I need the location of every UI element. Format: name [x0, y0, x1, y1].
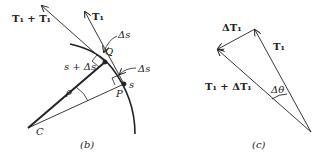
- caption-c: (c): [252, 140, 265, 150]
- label-t1-c: T₁: [273, 42, 285, 52]
- caption-b: (b): [80, 140, 94, 150]
- delta-s-pointer-right: [120, 68, 136, 74]
- label-t1-plus-t1: T₁ + T₁: [12, 14, 51, 24]
- curve-arc: [70, 44, 135, 134]
- label-rho: ρ: [66, 87, 72, 97]
- radius-cp: [28, 84, 124, 128]
- label-s: s: [129, 80, 134, 90]
- point-q: [103, 60, 107, 64]
- label-delta-t1: ΔT₁: [222, 23, 242, 33]
- label-delta-s-top: Δs: [118, 30, 130, 40]
- label-delta-s-right: Δs: [138, 64, 150, 74]
- label-delta-theta: Δθ: [271, 85, 284, 95]
- label-s-plus-delta-s: s + Δs: [64, 62, 96, 72]
- label-t1: T₁: [92, 12, 104, 22]
- point-p: [122, 82, 126, 86]
- label-t1-plus-delta-t1: T₁ + ΔT₁: [205, 82, 252, 92]
- label-p: P: [116, 89, 123, 99]
- angle-arc-c: [76, 87, 88, 101]
- label-c: C: [36, 127, 44, 137]
- figure-canvas: T₁ + T₁ T₁ Δs Q Δs s + Δs s P ρ C (b) ΔT…: [0, 0, 321, 156]
- label-q: Q: [105, 47, 113, 57]
